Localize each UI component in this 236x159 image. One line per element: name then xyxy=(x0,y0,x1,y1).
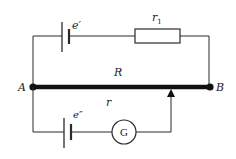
slider-contact-arrow-icon xyxy=(167,89,175,97)
emf-top-label: e′ xyxy=(72,19,82,32)
bottom-wire-left xyxy=(33,87,64,132)
resistor-r1 xyxy=(135,29,180,43)
resistor-r1-label: r1 xyxy=(152,11,162,26)
node-b-label: B xyxy=(215,81,224,94)
top-wire-left xyxy=(33,36,62,87)
bottom-wire-right xyxy=(136,95,171,132)
top-wire-right xyxy=(180,36,209,87)
emf-bottom-label: e″ xyxy=(73,109,83,120)
node-b-dot xyxy=(206,83,213,90)
circuit-diagram: e′ r1 R A B e″ r G xyxy=(0,0,236,159)
bottom-circuit xyxy=(33,87,171,148)
slide-wire-r-label: R xyxy=(113,66,122,79)
internal-r-label: r xyxy=(106,96,112,109)
galvanometer-label: G xyxy=(120,126,128,138)
node-a-label: A xyxy=(17,81,26,94)
